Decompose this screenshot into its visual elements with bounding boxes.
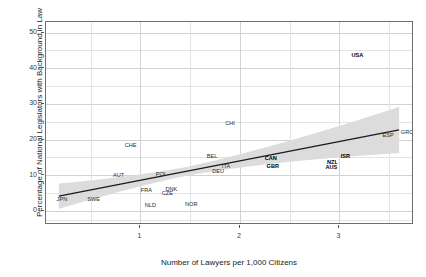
y-tick-mark xyxy=(41,32,44,33)
x-tick-mark xyxy=(139,225,140,228)
x-axis-title: Number of Lawyers per 1,000 Citizens xyxy=(45,258,413,267)
data-point-label: JPN xyxy=(57,197,68,203)
data-point-label: ESP xyxy=(383,133,394,139)
y-tick-mark xyxy=(41,103,44,104)
data-point-label: AUT xyxy=(113,173,124,179)
data-point-label: SWE xyxy=(87,197,100,203)
y-axis-title: Percentage of National Legislators with … xyxy=(35,8,44,218)
x-tick-mark xyxy=(239,225,240,228)
y-tick-label: 20 xyxy=(7,135,37,142)
data-point-label: CHE xyxy=(125,143,137,149)
data-point-label: ISR xyxy=(341,155,350,161)
data-point-label: NOR xyxy=(185,202,197,208)
data-point-label: NZL xyxy=(327,160,338,166)
data-point-label: GBR xyxy=(267,165,279,171)
data-point-label: CHI xyxy=(225,121,235,127)
y-tick-label: 40 xyxy=(7,64,37,71)
y-tick-label: 10 xyxy=(7,171,37,178)
data-point-label: USA xyxy=(351,53,363,59)
data-point-label: CAN xyxy=(265,156,277,162)
y-tick-label: 30 xyxy=(7,99,37,106)
data-point-label: GRC xyxy=(401,130,413,136)
y-tick-label: 50 xyxy=(7,28,37,35)
data-point-label: ITA xyxy=(222,164,230,170)
data-point-label: NLD xyxy=(145,203,156,209)
x-tick-label: 3 xyxy=(328,232,348,239)
x-tick-mark xyxy=(338,225,339,228)
data-point-label: BEL xyxy=(207,154,218,160)
data-point-label: POL xyxy=(156,173,167,179)
y-tick-mark xyxy=(41,139,44,140)
data-point-label: FRA xyxy=(141,188,152,194)
x-tick-label: 2 xyxy=(229,232,249,239)
y-tick-mark xyxy=(41,210,44,211)
x-tick-label: 1 xyxy=(129,232,149,239)
y-tick-label: 0 xyxy=(7,206,37,213)
y-tick-mark xyxy=(41,67,44,68)
y-tick-mark xyxy=(41,174,44,175)
scatter-chart: Percentage of National Legislators with … xyxy=(0,0,426,277)
plot-area: JPNSWEAUTCHEFRANLDPOLCZEDNKNORBELDEUITAC… xyxy=(45,21,413,224)
data-point-label: DNK xyxy=(165,188,177,194)
